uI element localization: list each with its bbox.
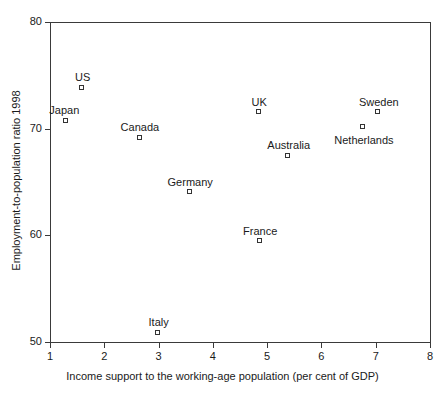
- data-point-label: Australia: [267, 139, 310, 151]
- data-point-marker: [63, 118, 68, 123]
- y-tick-mark: [45, 129, 51, 130]
- x-tick-label: 4: [201, 351, 225, 362]
- data-point-marker: [137, 135, 142, 140]
- x-tick-mark: [430, 342, 431, 348]
- data-point-marker: [79, 85, 84, 90]
- scatter-chart-figure: 50607080 12345678 JapanUSCanadaItalyGerm…: [0, 0, 445, 393]
- x-tick-label: 7: [364, 351, 388, 362]
- x-axis-line: [50, 342, 431, 343]
- x-tick-label: 8: [418, 351, 442, 362]
- data-point-label: UK: [252, 96, 267, 108]
- y-tick-mark: [45, 235, 51, 236]
- y-axis-title: Employment-to-population ratio 1998: [10, 76, 23, 286]
- top-frame-line: [50, 22, 431, 23]
- data-point-label: France: [243, 225, 277, 237]
- right-frame-line: [430, 22, 431, 343]
- data-point-marker: [285, 153, 290, 158]
- data-point-marker: [187, 189, 192, 194]
- x-tick-mark: [321, 342, 322, 348]
- data-point-label: Canada: [121, 121, 160, 133]
- x-tick-label: 6: [309, 351, 333, 362]
- data-point-marker: [257, 238, 262, 243]
- x-tick-mark: [267, 342, 268, 348]
- data-point-label: Netherlands: [334, 134, 393, 146]
- x-tick-mark: [50, 342, 51, 348]
- data-point-label: Sweden: [359, 96, 399, 108]
- y-tick-label: 50: [14, 336, 42, 347]
- data-point-marker: [360, 124, 365, 129]
- data-point-marker: [375, 109, 380, 114]
- x-tick-label: 1: [38, 351, 62, 362]
- data-point-label: US: [75, 71, 90, 83]
- data-point-marker: [256, 109, 261, 114]
- x-tick-label: 5: [255, 351, 279, 362]
- y-axis-line: [50, 22, 51, 343]
- x-tick-mark: [213, 342, 214, 348]
- x-tick-mark: [104, 342, 105, 348]
- data-point-marker: [155, 330, 160, 335]
- x-tick-mark: [376, 342, 377, 348]
- x-axis-title: Income support to the working-age popula…: [0, 370, 445, 383]
- y-tick-mark: [45, 22, 51, 23]
- data-point-label: Japan: [49, 104, 79, 116]
- x-tick-label: 2: [92, 351, 116, 362]
- data-point-label: Germany: [168, 176, 213, 188]
- x-tick-label: 3: [147, 351, 171, 362]
- y-tick-label: 80: [14, 16, 42, 27]
- x-tick-mark: [159, 342, 160, 348]
- data-point-label: Italy: [149, 316, 169, 328]
